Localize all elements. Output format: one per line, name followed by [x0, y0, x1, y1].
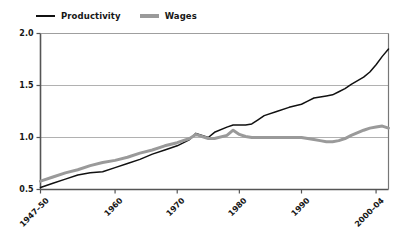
- chart-canvas: [0, 0, 412, 240]
- y-tick-label: 2.0: [10, 29, 34, 38]
- gridlines: [41, 34, 389, 138]
- chart-figure: Productivity Wages 0.51.01.52.0 1947–501…: [0, 0, 412, 240]
- y-tick-label: 0.5: [10, 185, 34, 194]
- series-line-productivity: [41, 49, 389, 187]
- plot-area: 0.51.01.52.0 1947–5019601970198019902000…: [0, 0, 412, 240]
- y-tick-label: 1.5: [10, 81, 34, 90]
- axis-ticks: [37, 34, 377, 194]
- series-lines: [41, 49, 389, 187]
- y-tick-label: 1.0: [10, 133, 34, 142]
